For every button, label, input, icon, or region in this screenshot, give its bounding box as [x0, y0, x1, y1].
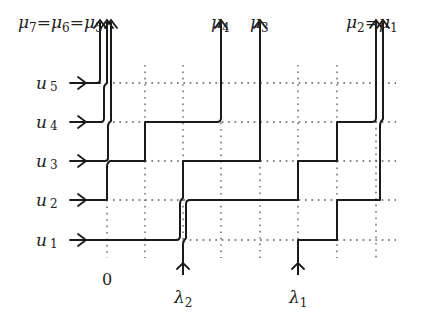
lattice-paths — [86, 22, 383, 275]
row-labels: u5 u4 u3 u2 u1 — [36, 73, 58, 251]
svg-text:u4: u4 — [36, 112, 58, 133]
path-u4 — [86, 22, 107, 122]
path-lambda1 — [298, 22, 383, 275]
origin-label: 0 — [102, 270, 112, 289]
svg-text:u3: u3 — [36, 151, 58, 172]
path-lambda2 — [183, 22, 376, 275]
svg-text:μ2=μ1: μ2=μ1 — [346, 12, 398, 35]
svg-text:u2: u2 — [36, 190, 58, 211]
svg-text:λ1: λ1 — [288, 287, 307, 310]
exit-arrows — [94, 20, 389, 28]
top-labels: μ7=μ6=μ5 μ4 μ3 μ2=μ1 — [18, 12, 398, 35]
svg-text:u1: u1 — [36, 230, 58, 251]
svg-text:μ4: μ4 — [211, 12, 230, 35]
path-u1 — [86, 22, 260, 240]
svg-text:μ3: μ3 — [250, 12, 269, 35]
svg-text:u5: u5 — [36, 73, 58, 94]
bottom-arrows — [177, 263, 304, 269]
lattice-diagram: u5 u4 u3 u2 u1 μ7=μ6=μ5 μ4 μ3 μ2=μ1 0 λ2… — [0, 0, 424, 324]
bottom-labels: 0 λ2 λ1 — [102, 270, 307, 310]
svg-text:λ2: λ2 — [173, 287, 192, 310]
svg-text:μ7=μ6=μ5: μ7=μ6=μ5 — [18, 12, 103, 35]
